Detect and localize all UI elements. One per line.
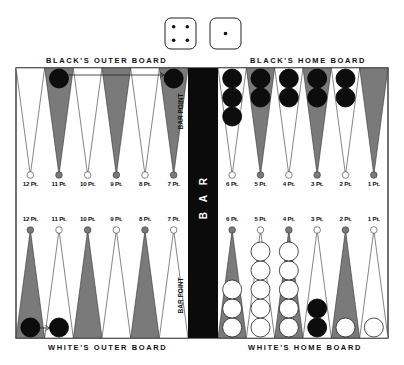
point-tip-marker	[286, 227, 293, 234]
white-checker	[223, 318, 242, 337]
point-tip-marker	[56, 227, 63, 234]
point-tip-marker	[27, 172, 34, 179]
black-checker	[50, 318, 69, 337]
black-checker	[223, 107, 242, 126]
die-pip	[224, 32, 228, 36]
point-tip-marker	[142, 172, 149, 179]
die-four	[165, 18, 196, 49]
white-checker	[279, 299, 298, 318]
point-tip-marker	[342, 227, 349, 234]
top-point-label: 2 Pt.	[339, 180, 351, 187]
black-checker	[251, 88, 270, 107]
title-white-home-board: WHITE'S HOME BOARD	[248, 343, 362, 352]
point-tip-marker	[371, 227, 378, 234]
point-tip-marker	[142, 227, 149, 234]
bottom-point-label: 1 Pt.	[368, 215, 380, 222]
top-point-label: 12 Pt.	[23, 180, 38, 187]
bottom-point-label: 2 Pt.	[339, 215, 351, 222]
point-tip-marker	[229, 172, 236, 179]
die-pip	[186, 25, 190, 29]
point-tip-marker	[314, 227, 321, 234]
point-tip-marker	[257, 227, 264, 234]
bar-letter-r: R	[198, 176, 209, 188]
point-tip-marker	[170, 227, 177, 234]
white-checker	[364, 318, 383, 337]
white-checker	[279, 318, 298, 337]
die-pip	[172, 39, 176, 43]
black-checker	[308, 69, 327, 88]
point-tip-marker	[371, 172, 378, 179]
top-point-label: 1 Pt.	[368, 180, 380, 187]
backgammon-diagram: BLACK'S OUTER BOARD BLACK'S HOME BOARD W…	[0, 0, 404, 365]
bottom-point-label: 7 Pt.	[168, 215, 180, 222]
title-black-home-board: BLACK'S HOME BOARD	[250, 56, 366, 65]
top-point-label: 3 Pt.	[311, 180, 323, 187]
point-tip-marker	[27, 227, 34, 234]
white-checker	[279, 280, 298, 299]
title-black-outer-board: BLACK'S OUTER BOARD	[46, 56, 167, 65]
point-tip-marker	[113, 227, 120, 234]
bottom-point-label: 8 Pt.	[139, 215, 151, 222]
white-checker	[251, 242, 270, 261]
white-checker	[336, 318, 355, 337]
point-tip-marker	[84, 172, 91, 179]
bottom-point-label: 6 Pt.	[226, 215, 238, 222]
black-checker	[50, 69, 69, 88]
point-tip-marker	[84, 227, 91, 234]
bottom-point-label: 5 Pt.	[254, 215, 266, 222]
point-tip-marker	[342, 172, 349, 179]
top-point-label: 4 Pt.	[283, 180, 295, 187]
top-point-label: 6 Pt.	[226, 180, 238, 187]
top-point-label: 10 Pt.	[80, 180, 95, 187]
white-checker	[223, 280, 242, 299]
white-checker	[251, 261, 270, 280]
bottom-point-label: 3 Pt.	[311, 215, 323, 222]
black-checker	[223, 69, 242, 88]
die-pip	[186, 39, 190, 43]
point-tip-marker	[257, 172, 264, 179]
black-checker	[336, 69, 355, 88]
bar-point-label-bottom: BAR POINT	[177, 266, 184, 326]
point-tip-marker	[56, 172, 63, 179]
black-checker	[223, 88, 242, 107]
point-tip-marker	[170, 172, 177, 179]
white-checker	[279, 242, 298, 261]
bottom-point-label: 11 Pt.	[52, 215, 67, 222]
top-point-label: 8 Pt.	[139, 180, 151, 187]
top-point-label: 5 Pt.	[254, 180, 266, 187]
black-checker	[279, 69, 298, 88]
top-point-label: 9 Pt.	[110, 180, 122, 187]
bar-letter-b: B	[198, 210, 209, 222]
point-tip-marker	[113, 172, 120, 179]
black-checker	[251, 69, 270, 88]
bar-letter-a: A	[198, 193, 209, 205]
black-checker	[308, 88, 327, 107]
point-tip-marker	[286, 172, 293, 179]
white-checker	[251, 299, 270, 318]
bottom-point-label: 12 Pt.	[23, 215, 38, 222]
top-point-label: 11 Pt.	[52, 180, 67, 187]
die-pip	[172, 25, 176, 29]
point-tip-marker	[314, 172, 321, 179]
title-white-outer-board: WHITE'S OUTER BOARD	[48, 343, 167, 352]
bottom-point-label: 10 Pt.	[80, 215, 95, 222]
black-checker	[336, 88, 355, 107]
black-checker	[21, 318, 40, 337]
black-checker	[308, 318, 327, 337]
white-checker	[251, 318, 270, 337]
black-checker	[308, 299, 327, 318]
top-point-label: 7 Pt.	[168, 180, 180, 187]
point-tip-marker	[229, 227, 236, 234]
white-checker	[251, 280, 270, 299]
black-checker	[279, 88, 298, 107]
white-checker	[223, 299, 242, 318]
bottom-point-label: 9 Pt.	[110, 215, 122, 222]
white-checker	[279, 261, 298, 280]
bar-point-label-top: BAR POINT	[177, 82, 184, 142]
bottom-point-label: 4 Pt.	[283, 215, 295, 222]
